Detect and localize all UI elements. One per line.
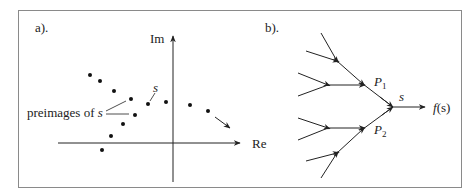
point (88, 73, 92, 77)
node-p1-label: P1 (373, 74, 386, 91)
panel-a: a). Im Re s preimages of s (27, 20, 267, 182)
edge-p2-to-s (382, 107, 393, 115)
node-p2-label: P2 (373, 122, 386, 139)
point (133, 113, 137, 117)
edge-p1-to-s (380, 97, 393, 107)
preimages-label: preimages of s (27, 105, 103, 120)
output-arg: (s) (437, 100, 451, 115)
point (109, 134, 113, 138)
panel-a-label: a). (35, 20, 48, 35)
edge-in-p2b (298, 128, 328, 140)
point (100, 148, 104, 152)
point-s-label: s (153, 80, 158, 95)
point (98, 79, 102, 83)
point (164, 100, 168, 104)
point (112, 89, 116, 93)
trend-arrow (215, 117, 230, 128)
node-p2-sub: 2 (382, 129, 387, 139)
preimages-label-text: preimages of (27, 105, 98, 120)
edge-in-p1a (298, 73, 328, 85)
edge-bottom-to-s (321, 107, 393, 178)
panel-b: b). P1 P2 s f(s) (265, 20, 450, 178)
point (129, 97, 133, 101)
point (188, 103, 192, 107)
edge-top-to-s (321, 33, 393, 107)
node-p2-letter: P (373, 122, 382, 137)
node-p1-letter: P (373, 74, 382, 89)
preimages-label-var: s (98, 105, 103, 120)
node-s-label: s (399, 89, 404, 104)
node-p1-sub: 1 (382, 81, 387, 91)
edge-in-p2a (298, 118, 328, 128)
edge-in-p1b (298, 85, 328, 96)
preimage-points (88, 73, 210, 152)
point (121, 122, 125, 126)
point-s (146, 102, 150, 106)
imaginary-axis-label: Im (150, 31, 164, 46)
panel-b-label: b). (265, 20, 279, 35)
real-axis-label: Re (252, 136, 267, 151)
output-label: f(s) (433, 100, 450, 115)
diagram-canvas: a). Im Re s preimages of s (0, 0, 476, 196)
preimage-leader-1 (106, 101, 126, 111)
point (206, 109, 210, 113)
